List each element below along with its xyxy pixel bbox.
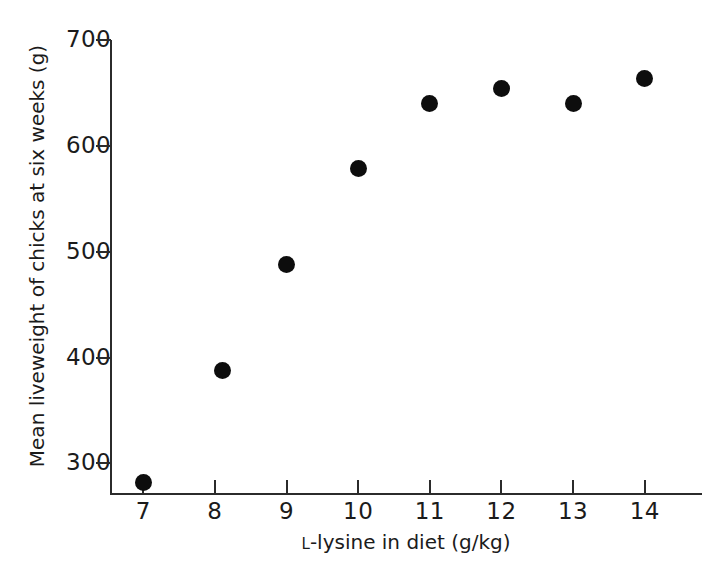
x-axis-title: L-lysine in diet (g/kg) — [110, 530, 702, 556]
y-axis-title: Mean liveweight of chicks at six weeks (… — [25, 6, 49, 506]
x-axis-title-prefix: L — [302, 535, 310, 553]
scatter-point — [350, 160, 367, 177]
scatter-point — [565, 95, 582, 112]
scatter-point — [636, 70, 653, 87]
scatter-point — [135, 474, 152, 491]
scatter-point — [493, 80, 510, 97]
scatter-point — [421, 95, 438, 112]
scatter-points-layer — [0, 0, 721, 574]
x-axis-title-rest: -lysine in diet (g/kg) — [310, 530, 511, 554]
scatter-point — [214, 362, 231, 379]
scatter-point — [278, 256, 295, 273]
chart-figure: 300400500600700 7891011121314 L-lysine i… — [0, 0, 721, 574]
